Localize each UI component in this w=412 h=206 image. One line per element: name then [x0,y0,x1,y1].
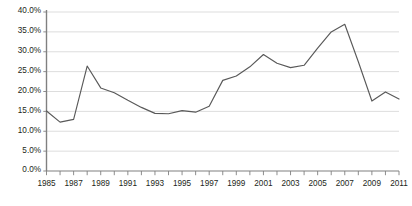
y-axis-tick-label: 40.0% [0,7,41,15]
axes [47,10,400,171]
x-axis-tick-label: 2001 [250,180,276,188]
data-series-group [47,24,400,122]
x-axis-tick-label: 1985 [34,180,60,188]
y-axis-tick-label: 5.0% [0,147,41,155]
x-axis-tick-label: 1987 [61,180,87,188]
x-axis-ticks [47,171,400,175]
x-axis-tick-label: 2005 [305,180,331,188]
y-axis-tick-label: 20.0% [0,87,41,95]
x-axis-tick-label: 1989 [88,180,114,188]
x-axis-tick-label: 2003 [278,180,304,188]
x-axis-tick-label: 1993 [142,180,168,188]
data-line-1 [47,24,400,122]
y-axis-tick-label: 35.0% [0,27,41,35]
y-axis-tick-label: 0.0% [0,166,41,174]
y-axis-tick-label: 15.0% [0,107,41,115]
x-axis-tick-label: 1999 [223,180,249,188]
y-axis-tick-label: 10.0% [0,127,41,135]
y-axis-tick-label: 30.0% [0,47,41,55]
x-axis-tick-label: 2009 [359,180,385,188]
y-axis-tick-label: 25.0% [0,67,41,75]
x-axis-tick-label: 1997 [196,180,222,188]
x-axis-tick-label: 1991 [115,180,141,188]
x-axis-tick-label: 2011 [386,180,412,188]
x-axis-tick-label: 2007 [332,180,358,188]
x-axis-tick-label: 1995 [169,180,195,188]
